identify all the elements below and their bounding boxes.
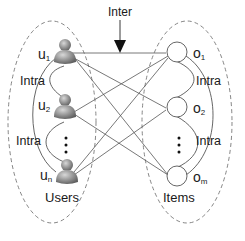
user-label-base: u xyxy=(40,167,48,183)
user-label-sub: n xyxy=(48,175,52,184)
items-intra-label-top: Intra xyxy=(196,74,221,88)
item-label-sub: 2 xyxy=(201,108,206,117)
item-circle-icon xyxy=(167,42,187,62)
user-label-sub: 1 xyxy=(46,54,51,63)
user-icon xyxy=(54,39,76,64)
users-intra-label-top: Intra xyxy=(20,74,45,88)
item-label-base: o xyxy=(193,169,201,185)
users-intra-label-bottom: Intra xyxy=(16,134,41,148)
users-intra-curve-u2-un xyxy=(46,122,64,162)
svg-text:om: om xyxy=(193,169,208,186)
item-label-sub: 1 xyxy=(201,53,206,62)
items-intra-curve-o1-o2 xyxy=(176,61,194,98)
user-node-un: un xyxy=(40,159,78,184)
items-ellipsis-icon xyxy=(178,137,181,154)
item-circle-icon xyxy=(167,166,187,186)
items-group-label: Items xyxy=(163,190,195,205)
item-label-sub: m xyxy=(201,177,208,186)
items-intra-label-bottom: Intra xyxy=(196,134,221,148)
item-node-om: om xyxy=(167,166,208,186)
user-label-sub: 2 xyxy=(46,105,51,114)
user-label-base: u xyxy=(38,97,46,113)
item-node-o2: o2 xyxy=(167,97,206,117)
items-intra-curve-o2-om xyxy=(176,116,198,168)
inter-edges xyxy=(72,53,168,175)
svg-text:u2: u2 xyxy=(38,97,51,114)
item-circle-icon xyxy=(167,97,187,117)
user-item-graph-diagram: Inter u1 u2 un xyxy=(0,0,245,241)
svg-text:o1: o1 xyxy=(193,45,206,62)
users-ellipsis-icon xyxy=(65,137,68,154)
item-label-base: o xyxy=(193,100,201,116)
user-node-u2: u2 xyxy=(38,94,76,119)
svg-text:un: un xyxy=(40,167,52,184)
inter-arrow-head-icon xyxy=(114,40,126,53)
diagram-svg: Inter u1 u2 un xyxy=(0,0,245,241)
svg-text:u1: u1 xyxy=(38,46,51,63)
inter-label: Inter xyxy=(108,5,132,19)
users-group-label: Users xyxy=(45,190,79,205)
item-node-o1: o1 xyxy=(167,42,206,62)
svg-text:o2: o2 xyxy=(193,100,206,117)
user-icon xyxy=(54,94,76,119)
item-label-base: o xyxy=(193,45,201,61)
user-node-u1: u1 xyxy=(38,39,76,64)
user-label-base: u xyxy=(38,46,46,62)
users-intra-curve-u1-u2 xyxy=(50,66,64,98)
